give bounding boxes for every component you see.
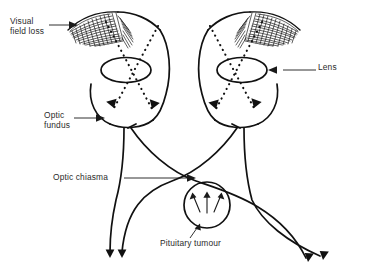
label-lens: Lens [318,62,337,72]
right-ray-arrowhead-lower-left [208,99,221,111]
right-ray-arrowhead-lower-right [249,98,262,109]
pituitary-tumour-leader [190,228,197,238]
label-optic-chiasma: Optic chiasma [53,172,108,182]
left-eye-uncrossed-fibre [110,128,124,252]
label-optic-fundus-line1: Optic [44,110,64,120]
left-visual-field-loss-region [68,12,133,48]
right-eye-uncrossed-fibre [244,128,320,256]
visual-pathway-diagram: Visualfield loss Lens Opticfundus Optic … [0,0,368,269]
label-optic-fundus: Opticfundus [44,110,70,130]
right-visual-field-loss-region [235,12,300,48]
right-globe-left-wall [199,30,215,120]
label-visual-field-loss: Visualfield loss [10,16,44,36]
tumour-pressure-arrow-right-head [218,193,225,200]
lens-leader-arrowhead [268,66,277,74]
left-ray-arrowhead-lower-right [147,99,160,111]
label-optic-fundus-line2: fundus [44,120,70,130]
tumour-pressure-arrow-centre-head [203,191,210,197]
left-globe-right-wall [153,30,169,120]
tumour-pressure-arrow-left-head [190,193,197,200]
pituitary-tumour-group [184,182,230,228]
diagram-canvas [0,0,368,269]
right-globe-right-wall [258,84,278,124]
label-pituitary-tumour: Pituitary tumour [160,238,221,248]
optic-tract-arrowhead-left-inner [118,249,127,258]
optic-tract-arrowhead-left-outer [106,249,115,258]
label-visual-field-loss-line1: Visual [10,16,34,26]
label-leaders-group [49,21,316,238]
left-eye-group [68,12,169,128]
label-visual-field-loss-line2: field loss [10,26,44,36]
left-ray-arrowhead-lower-left [106,98,119,109]
